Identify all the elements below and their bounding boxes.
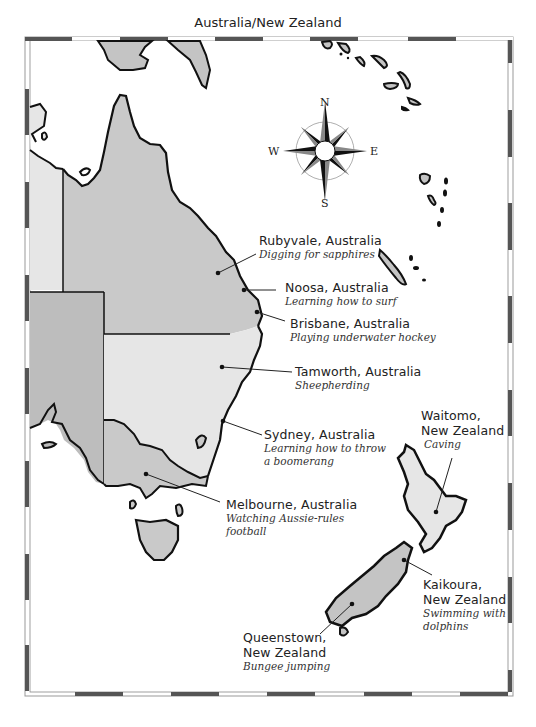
city-name: Melbourne, Australia: [226, 497, 346, 512]
city-name: Sydney, Australia: [264, 427, 394, 442]
vanuatu-dots: [409, 178, 448, 282]
island-shape: [42, 133, 47, 140]
city-name: Kaikoura, New Zealand: [423, 577, 511, 607]
city-name: Tamworth, Australia: [295, 364, 421, 379]
activity-text: Sheepherding: [295, 379, 421, 392]
activity-text: Watching Aussie-rules football: [226, 512, 346, 538]
vanuatu-islands: [420, 174, 436, 205]
activity-text: Bungee jumping: [243, 660, 333, 673]
location-label-queenstown: Queenstown, New Zealand Bungee jumping: [243, 630, 333, 673]
location-label-sydney: Sydney, Australia Learning how to throw …: [264, 427, 394, 468]
nz-north-island-shape: [398, 445, 466, 552]
compass-rose-icon: [277, 101, 373, 201]
location-label-tamworth: Tamworth, Australia Sheepherding: [295, 364, 421, 392]
compass-north-label: N: [320, 96, 330, 109]
compass-west-label: W: [268, 145, 279, 158]
island-shape: [80, 168, 90, 175]
activity-text: Learning how to surf: [285, 295, 397, 308]
compass-south-label: S: [321, 197, 329, 210]
activity-text: Playing underwater hockey: [290, 331, 436, 344]
new-guinea-east-shape: [168, 41, 210, 88]
location-label-rubyvale: Rubyvale, Australia Digging for sapphire…: [259, 233, 382, 261]
activity-text: Caving: [421, 438, 509, 451]
location-label-noosa: Noosa, Australia Learning how to surf: [285, 280, 397, 308]
compass-east-label: E: [370, 145, 378, 158]
activity-text: Learning how to throw a boomerang: [264, 442, 394, 468]
activity-text: Digging for sapphires: [259, 248, 382, 261]
tasmania-shape: [136, 520, 178, 560]
nz-south-island-shape: [326, 542, 412, 626]
island-dot: [347, 57, 349, 59]
new-guinea-shape: [98, 41, 152, 70]
city-name: Noosa, Australia: [285, 280, 397, 295]
south-australia-shape: [30, 292, 104, 484]
stewart-island-shape: [340, 628, 348, 636]
kangaroo-island-shape: [42, 442, 56, 448]
solomon-islands: [322, 41, 420, 110]
flinders-island-shape: [176, 504, 183, 516]
location-label-kaikoura: Kaikoura, New Zealand Swimming with dolp…: [423, 577, 511, 633]
city-name: Rubyvale, Australia: [259, 233, 382, 248]
location-label-melbourne: Melbourne, Australia Watching Aussie-rul…: [226, 497, 346, 538]
location-label-brisbane: Brisbane, Australia Playing underwater h…: [290, 316, 436, 344]
activity-text: Swimming with dolphins: [423, 607, 511, 633]
location-label-waitomo: Waitomo, New Zealand Caving: [421, 408, 509, 451]
city-name: Queenstown, New Zealand: [243, 630, 333, 660]
king-island-shape: [130, 500, 136, 508]
island-dot: [340, 53, 343, 56]
city-name: Brisbane, Australia: [290, 316, 436, 331]
city-name: Waitomo, New Zealand: [421, 408, 509, 438]
